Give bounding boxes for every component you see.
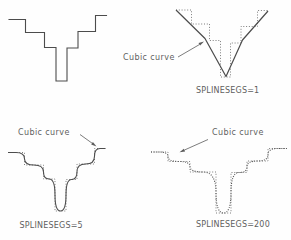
splinesegs-5-caption: SPLINESEGS=5 — [20, 221, 83, 230]
cubic-curve-label-bottom-left: Cubic curve — [18, 128, 70, 137]
spline-frame-dotted-top-right — [176, 10, 268, 77]
spline-frame-dotted-bottom-right — [151, 149, 287, 214]
cubic-curve-segs1 — [176, 10, 268, 77]
leader-line-bottom-right — [185, 140, 209, 151]
stepped-polyline — [9, 16, 107, 82]
diagram-canvas: Cubic curve SPLINESEGS=1 Cubic curve SPL… — [0, 0, 291, 240]
leader-line-bottom-left — [80, 135, 93, 144]
leader-line-top-right — [178, 45, 200, 58]
cubic-curve-label-bottom-right: Cubic curve — [212, 128, 264, 137]
cubic-curve-segs200 — [151, 149, 287, 214]
cubic-curve-label-top-right: Cubic curve — [123, 53, 175, 62]
splinesegs-200-caption: SPLINESEGS=200 — [196, 220, 270, 229]
splinesegs-diagram — [0, 0, 291, 240]
leader-arrowhead-bottom-right — [180, 149, 186, 153]
cubic-curve-segs5 — [8, 149, 106, 212]
spline-frame-dotted-bottom-left — [8, 149, 106, 212]
splinesegs-1-caption: SPLINESEGS=1 — [196, 86, 259, 95]
